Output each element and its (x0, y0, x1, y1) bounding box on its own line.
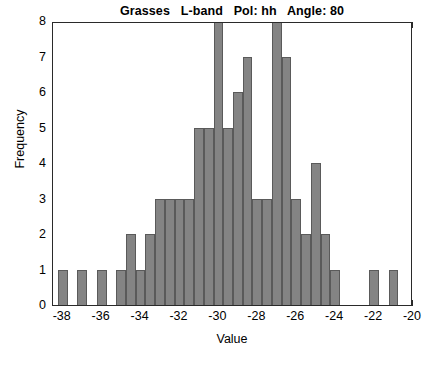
x-tick-mark-top (412, 22, 413, 28)
y-tick-label: 5 (0, 122, 46, 135)
y-tick-label: 2 (0, 228, 46, 241)
y-tick-label: 3 (0, 193, 46, 206)
histogram-bar (116, 270, 126, 306)
y-tick-label: 1 (0, 264, 46, 277)
histogram-bar (126, 234, 136, 305)
histogram-bar (311, 163, 321, 305)
histogram-bar (136, 270, 146, 306)
histogram-bar (58, 270, 68, 306)
x-tick-label: -34 (118, 310, 162, 323)
histogram-bar (77, 270, 87, 306)
histogram-bar (243, 57, 253, 306)
histogram-bar (282, 57, 292, 306)
plot-area (52, 22, 412, 306)
histogram-figure: Grasses L-band Pol: hh Angle: 80 Frequen… (0, 0, 423, 370)
histogram-bar (233, 92, 243, 305)
y-tick-label: 7 (0, 51, 46, 64)
x-tick-label: -26 (273, 310, 317, 323)
x-tick-label: -20 (390, 310, 423, 323)
histogram-bar (252, 199, 262, 306)
x-tick-mark (412, 300, 413, 306)
x-tick-label: -32 (156, 310, 200, 323)
histogram-bar (194, 128, 204, 306)
histogram-bar (145, 234, 155, 305)
chart-title: Grasses L-band Pol: hh Angle: 80 (52, 4, 412, 18)
histogram-bar (262, 199, 272, 306)
y-tick-label: 4 (0, 157, 46, 170)
x-tick-label: -28 (234, 310, 278, 323)
histogram-bar (321, 234, 331, 305)
histogram-bar (214, 22, 224, 305)
histogram-bar (165, 199, 175, 306)
x-axis-label: Value (52, 332, 412, 346)
histogram-bar (301, 234, 311, 305)
histogram-bar (272, 22, 282, 305)
x-tick-label: -24 (312, 310, 356, 323)
histogram-bar (369, 270, 379, 306)
histogram-bar (291, 199, 301, 306)
histogram-bar (175, 199, 185, 306)
histogram-bar (223, 128, 233, 306)
x-tick-label: -38 (40, 310, 84, 323)
y-tick-label: 8 (0, 15, 46, 28)
histogram-bar (330, 270, 340, 306)
x-tick-label: -36 (79, 310, 123, 323)
histogram-bar (155, 199, 165, 306)
histogram-bar (204, 128, 214, 306)
x-tick-label: -22 (351, 310, 395, 323)
histogram-bar (389, 270, 399, 306)
histogram-bar (184, 199, 194, 306)
x-tick-label: -30 (195, 310, 239, 323)
histogram-bar (97, 270, 107, 306)
y-tick-label: 6 (0, 86, 46, 99)
histogram-bars (53, 23, 411, 305)
